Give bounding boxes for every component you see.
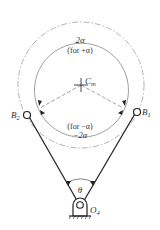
center-label: Cm (85, 76, 96, 87)
joint-b2 (24, 112, 31, 119)
bottom-arc-label: −2α (73, 130, 88, 140)
four-bar-linkage-diagram: 2α (for +α) Cm (for −α) −2α B2 B1 θ O4 (0, 0, 160, 230)
theta-angle-arc (67, 179, 94, 183)
arrow-marker-left-upper (38, 100, 42, 106)
arrow-marker-right-upper (122, 100, 126, 106)
top-arc-note: (for +α) (67, 46, 93, 55)
joint-b1 (134, 109, 141, 116)
ground-pivot-o4 (69, 198, 91, 219)
radius-line-right (81, 85, 123, 108)
o4-label: O4 (90, 205, 101, 216)
b1-label: B1 (142, 107, 151, 118)
theta-label: θ (78, 185, 83, 195)
b2-label: B2 (11, 110, 21, 121)
radius-line-left (40, 85, 81, 108)
top-arc-label: 2α (75, 35, 85, 45)
